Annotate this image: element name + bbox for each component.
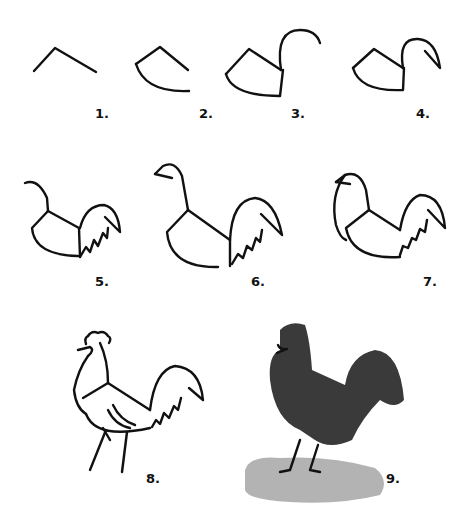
step-label-7: 7. <box>423 274 437 289</box>
step-3-drawing <box>226 30 320 96</box>
rooster-drawing-steps <box>0 0 469 519</box>
step-1-drawing <box>34 48 96 72</box>
step-9-drawing <box>245 323 404 502</box>
step-5-drawing <box>25 182 120 257</box>
step-label-9: 9. <box>386 471 400 486</box>
step-4-drawing <box>353 39 440 90</box>
step-label-5: 5. <box>95 274 109 289</box>
step-label-1: 1. <box>95 106 109 121</box>
step-6-drawing <box>155 164 282 267</box>
step-label-4: 4. <box>416 106 430 121</box>
step-8-drawing <box>74 332 203 472</box>
step-label-3: 3. <box>291 106 305 121</box>
step-7-drawing <box>334 174 445 257</box>
step-label-6: 6. <box>251 274 265 289</box>
step-label-2: 2. <box>199 106 213 121</box>
step-label-8: 8. <box>146 471 160 486</box>
step-2-drawing <box>136 47 189 91</box>
